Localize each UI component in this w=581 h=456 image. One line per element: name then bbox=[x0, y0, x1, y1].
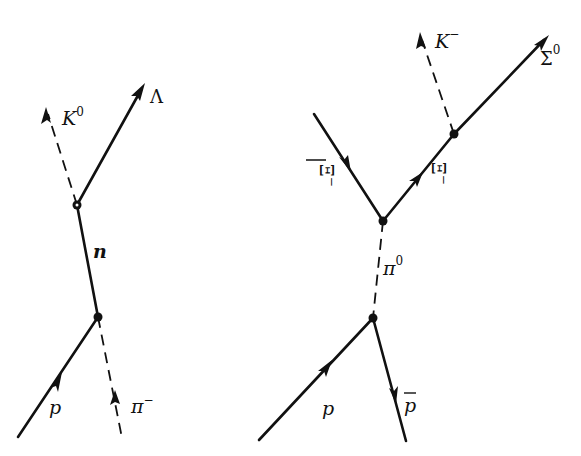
proton-line bbox=[18, 317, 98, 437]
sigma0-label: Σ0 bbox=[540, 43, 560, 69]
k-minus-label: K− bbox=[434, 27, 459, 52]
antiproton-label: p bbox=[404, 393, 416, 416]
pi-minus-line bbox=[98, 317, 122, 438]
k-minus-line bbox=[422, 40, 454, 134]
vertex-lower-left bbox=[94, 313, 103, 322]
svg-text:p: p bbox=[404, 394, 416, 416]
pi0-line bbox=[373, 221, 383, 318]
vertex-upper-left-center bbox=[76, 204, 79, 207]
lambda-line bbox=[77, 90, 141, 205]
k-minus-arrow-icon bbox=[416, 32, 426, 49]
lambda-label: Λ bbox=[149, 86, 164, 107]
proton-right-label: p bbox=[322, 397, 334, 419]
k0-label: K0 bbox=[61, 105, 84, 129]
lambda-arrow-icon bbox=[131, 83, 145, 101]
left-diagram: K0 Λ n p π− bbox=[18, 83, 164, 438]
sigma0-line bbox=[454, 40, 544, 134]
vertex-xi-decay bbox=[450, 130, 459, 139]
feynman-diagrams: K0 Λ n p π− Ξ− Ξ− bbox=[0, 0, 581, 456]
proton-arrow-icon bbox=[50, 372, 62, 392]
neutron-label: n bbox=[93, 240, 107, 262]
proton-label: p bbox=[49, 396, 61, 418]
svg-text:Ξ−: Ξ− bbox=[428, 162, 451, 185]
vertex-xi-pair bbox=[379, 217, 388, 226]
vertex-annihilation bbox=[369, 314, 378, 323]
pi-minus-label: π− bbox=[130, 393, 154, 417]
right-diagram: Ξ− Ξ− K− Σ0 π0 p p bbox=[259, 27, 560, 441]
svg-text:Ξ−: Ξ− bbox=[316, 164, 339, 187]
pi0-label: π0 bbox=[382, 254, 403, 279]
proton-line-right bbox=[259, 318, 373, 440]
k0-arrow-icon bbox=[41, 107, 51, 124]
antiproton-line bbox=[373, 318, 406, 441]
pi-minus-arrow-icon bbox=[110, 390, 120, 405]
xi-bar-label: Ξ− bbox=[306, 160, 339, 187]
xi-minus-label: Ξ− bbox=[428, 162, 451, 185]
